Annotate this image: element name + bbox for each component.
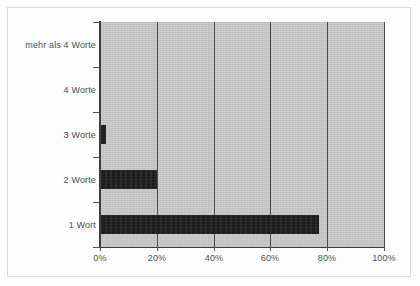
x-tick-label: 100%	[354, 252, 414, 264]
y-axis-labels: mehr als 4 Worte4 Worte3 Worte2 Worte1 W…	[0, 22, 96, 247]
bar-row	[100, 112, 384, 157]
plot-area	[100, 22, 384, 247]
x-tick-label: 80%	[297, 252, 357, 264]
x-tick-label: 60%	[240, 252, 300, 264]
y-tick-label: 2 Worte	[4, 175, 96, 185]
x-tick-label: 0%	[70, 252, 130, 264]
x-axis-tick	[270, 247, 271, 251]
x-axis-tick	[100, 247, 101, 251]
x-axis-tick	[384, 247, 385, 251]
x-tick-label: 20%	[127, 252, 187, 264]
y-tick-label: 1 Wort	[4, 220, 96, 230]
x-axis-tick	[157, 247, 158, 251]
bar-row	[100, 202, 384, 247]
bar-2-worte	[100, 170, 157, 189]
gridline-100	[384, 22, 385, 247]
y-tick-label: 4 Worte	[4, 85, 96, 95]
x-axis-tick	[327, 247, 328, 251]
x-axis-labels: 0%20%40%60%80%100%	[0, 252, 420, 268]
x-tick-label: 40%	[184, 252, 244, 264]
x-axis-tick	[214, 247, 215, 251]
y-tick-label: mehr als 4 Worte	[4, 40, 96, 50]
bar-1-wort	[100, 215, 319, 234]
bar-row	[100, 67, 384, 112]
chart-figure: mehr als 4 Worte4 Worte3 Worte2 Worte1 W…	[0, 0, 420, 286]
bar-row	[100, 22, 384, 67]
bar-row	[100, 157, 384, 202]
y-tick-label: 3 Worte	[4, 130, 96, 140]
